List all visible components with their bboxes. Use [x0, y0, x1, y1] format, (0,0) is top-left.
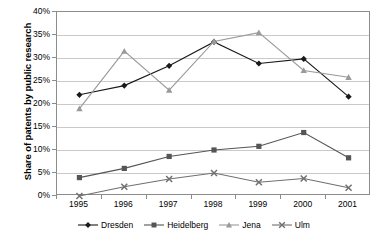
- legend-label: Jena: [242, 220, 260, 230]
- data-point-marker: [121, 48, 127, 54]
- y-axis-tick-label: 0%: [8, 190, 50, 200]
- legend-item-dresden[interactable]: Dresden: [77, 220, 133, 230]
- x-axis-tick-label: 1995: [69, 199, 88, 209]
- legend-marker-icon: [218, 220, 240, 230]
- data-point-marker: [256, 144, 261, 149]
- legend-marker-icon: [77, 220, 99, 230]
- y-axis-tick-label: 40%: [8, 6, 50, 16]
- y-axis-tick-label: 5%: [8, 167, 50, 177]
- x-axis-tick-label: 1997: [159, 199, 178, 209]
- chart-root: Share of patents by public research 0%5%…: [0, 0, 387, 244]
- legend-label: Dresden: [101, 220, 133, 230]
- y-axis-tick-label: 10%: [8, 144, 50, 154]
- series-ulm: [76, 170, 351, 199]
- data-point-marker: [301, 130, 306, 135]
- y-axis-tick-label: 25%: [8, 75, 50, 85]
- plot-area: [56, 11, 370, 195]
- data-point-marker: [166, 63, 172, 69]
- data-point-marker: [121, 83, 127, 89]
- data-point-marker: [76, 92, 82, 98]
- legend-item-heidelberg[interactable]: Heidelberg: [143, 220, 208, 230]
- data-point-marker: [256, 30, 262, 36]
- series-line: [79, 173, 348, 196]
- legend-item-jena[interactable]: Jena: [218, 220, 260, 230]
- data-point-marker: [256, 60, 262, 66]
- data-point-marker: [167, 154, 172, 159]
- series-line: [79, 42, 348, 97]
- y-axis-tick-label: 20%: [8, 98, 50, 108]
- x-axis-tick-label: 1998: [204, 199, 223, 209]
- x-axis-tick-label: 1999: [248, 199, 267, 209]
- legend-label: Heidelberg: [167, 220, 208, 230]
- y-axis-tick-label: 30%: [8, 52, 50, 62]
- data-point-marker: [211, 147, 216, 152]
- legend-marker-icon: [271, 220, 293, 230]
- series-jena: [76, 30, 352, 112]
- y-axis-tick-label: 15%: [8, 121, 50, 131]
- x-axis-tick-label: 1996: [114, 199, 133, 209]
- data-point-marker: [122, 166, 127, 171]
- chart-legend: DresdenHeidelbergJenaUlm: [0, 220, 387, 230]
- legend-item-ulm[interactable]: Ulm: [271, 220, 310, 230]
- x-axis-tick-label: 2001: [338, 199, 357, 209]
- series-layer: [57, 12, 371, 196]
- data-point-marker: [77, 175, 82, 180]
- data-point-marker: [346, 155, 351, 160]
- y-axis-tick-label: 35%: [8, 29, 50, 39]
- legend-marker-icon: [143, 220, 165, 230]
- series-dresden: [76, 39, 351, 100]
- series-line: [79, 133, 348, 178]
- legend-label: Ulm: [295, 220, 310, 230]
- x-axis-tick-label: 2000: [293, 199, 312, 209]
